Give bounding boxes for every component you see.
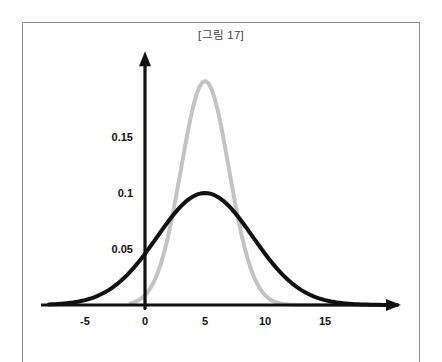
y-axis-ticks: 0.050.10.15 [112, 131, 133, 255]
x-tick-label: 10 [259, 315, 271, 327]
x-tick-label: -5 [80, 315, 90, 327]
axes-group [41, 51, 401, 311]
y-tick-label: 0.05 [112, 243, 133, 255]
wide-normal-curve [49, 193, 397, 305]
narrow-normal-curve [131, 81, 395, 305]
curves-group [49, 81, 397, 305]
y-tick-label: 0.15 [112, 131, 133, 143]
y-tick-label: 0.1 [118, 187, 133, 199]
y-axis-arrow-icon [139, 51, 151, 66]
x-axis-arrow-icon [386, 299, 401, 311]
x-tick-label: 15 [319, 315, 331, 327]
x-tick-label: 5 [202, 315, 208, 327]
x-tick-label: 0 [142, 315, 148, 327]
